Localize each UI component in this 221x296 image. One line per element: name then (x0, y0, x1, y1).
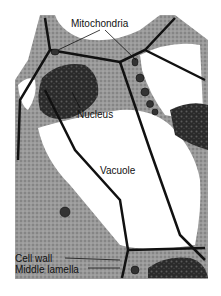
label-mitochondria: Mitochondria (71, 18, 129, 29)
label-nucleus: Nucleus (77, 109, 113, 120)
micrograph: Mitochondria Nucleus Vacuole Cell wall M… (0, 0, 221, 296)
label-cell-wall: Cell wall (15, 253, 52, 264)
label-middle-lamella: Middle lamella (15, 264, 79, 275)
label-vacuole: Vacuole (100, 165, 136, 176)
